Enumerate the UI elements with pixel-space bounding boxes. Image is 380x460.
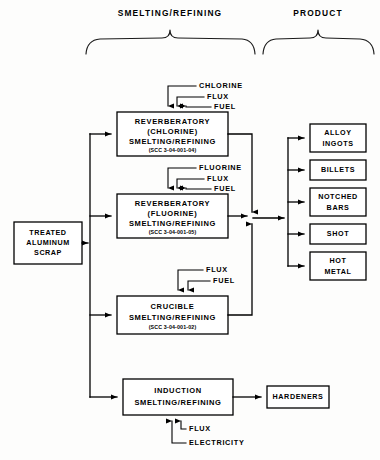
input-line-flux-4 bbox=[181, 421, 186, 429]
product-hardeners-group: HARDENERS bbox=[233, 386, 329, 408]
flow-diagram-canvas: SMELTING/REFINING PRODUCT TREATED ALUMIN… bbox=[0, 0, 380, 460]
process-induction-group: INDUCTION SMELTING/REFINING bbox=[123, 379, 233, 415]
induction-line-1: INDUCTION bbox=[154, 386, 202, 395]
product-billets-group: BILLETS bbox=[288, 160, 366, 180]
input-line-fluorine-2 bbox=[168, 168, 196, 188]
crucible-line-2: SMELTING/REFINING bbox=[129, 313, 216, 322]
header-label-smelting: SMELTING/REFINING bbox=[118, 8, 223, 18]
reverberatory-chlorine-line-2: (CHLORINE) bbox=[147, 127, 198, 136]
hot-metal-line-1: HOT bbox=[330, 256, 347, 265]
brace-smelting-refining bbox=[86, 30, 255, 54]
input-line-electricity-4 bbox=[172, 421, 186, 443]
crucible-scc: (SCC 3-04-001-02) bbox=[149, 324, 197, 330]
input-line-flux-1 bbox=[177, 97, 204, 106]
input-label-flux-1: FLUX bbox=[207, 92, 229, 101]
billets-line-1: BILLETS bbox=[321, 165, 355, 174]
reverberatory-chlorine-scc: (SCC 3-04-001-04) bbox=[149, 147, 197, 153]
input-line-chlorine-1 bbox=[168, 86, 196, 106]
input-label-flux-2: FLUX bbox=[207, 174, 229, 183]
input-label-electricity-4: ELECTRICITY bbox=[189, 438, 245, 447]
input-line-flux-2 bbox=[177, 179, 204, 188]
input-label-chlorine-1: CHLORINE bbox=[199, 81, 243, 90]
product-notched-bars-group: NOTCHED BARS bbox=[288, 188, 366, 216]
connector-chlorine-output bbox=[228, 134, 252, 212]
inputs-reverberatory-fluorine: FLUORINE FLUX FUEL bbox=[168, 163, 242, 193]
reverberatory-fluorine-line-1: REVERBERATORY bbox=[135, 199, 210, 208]
input-label-flux-4: FLUX bbox=[189, 424, 211, 433]
input-line-fuel-2 bbox=[186, 188, 211, 189]
input-label-fuel-1: FUEL bbox=[214, 102, 236, 111]
feedstock-line-1: TREATED bbox=[29, 228, 66, 237]
input-label-fuel-2: FUEL bbox=[214, 184, 236, 193]
reverberatory-chlorine-line-1: REVERBERATORY bbox=[135, 117, 210, 126]
inputs-reverberatory-chlorine: CHLORINE FLUX FUEL bbox=[168, 81, 243, 111]
alloy-ingots-line-1: ALLOY bbox=[324, 128, 351, 137]
brace-product bbox=[263, 30, 374, 54]
process-flow-diagram: SMELTING/REFINING PRODUCT TREATED ALUMIN… bbox=[0, 0, 380, 460]
input-label-flux-3: FLUX bbox=[206, 265, 228, 274]
input-line-fuel-3 bbox=[188, 281, 210, 290]
product-shot-group: SHOT bbox=[288, 224, 366, 244]
alloy-ingots-line-2: INGOTS bbox=[322, 139, 353, 148]
inputs-induction: FLUX ELECTRICITY bbox=[172, 421, 245, 447]
hot-metal-line-2: METAL bbox=[324, 267, 351, 276]
inputs-crucible: FLUX FUEL bbox=[178, 265, 235, 290]
notched-bars-line-2: BARS bbox=[327, 203, 350, 212]
reverberatory-fluorine-line-3: SMELTING/REFINING bbox=[129, 219, 216, 228]
header-product: PRODUCT bbox=[263, 8, 374, 54]
notched-bars-line-1: NOTCHED bbox=[318, 192, 358, 201]
hardeners-label: HARDENERS bbox=[273, 392, 324, 401]
process-reverberatory-fluorine-group: REVERBERATORY (FLUORINE) SMELTING/REFINI… bbox=[117, 194, 228, 238]
reverberatory-chlorine-line-3: SMELTING/REFINING bbox=[129, 137, 216, 146]
output-convergence-group bbox=[228, 134, 288, 315]
product-alloy-ingots-group: ALLOY INGOTS bbox=[288, 124, 366, 152]
crucible-line-1: CRUCIBLE bbox=[151, 302, 195, 311]
header-smelting-refining: SMELTING/REFINING bbox=[86, 8, 255, 54]
process-reverberatory-chlorine-group: REVERBERATORY (CHLORINE) SMELTING/REFINI… bbox=[117, 112, 228, 156]
input-label-fuel-3: FUEL bbox=[213, 276, 235, 285]
input-line-fuel-1 bbox=[186, 106, 211, 107]
input-line-flux-3 bbox=[178, 270, 203, 290]
process-crucible-group: CRUCIBLE SMELTING/REFINING (SCC 3-04-001… bbox=[117, 296, 228, 334]
reverberatory-fluorine-line-2: (FLUORINE) bbox=[148, 209, 198, 218]
feedstock-line-2: ALUMINUM bbox=[26, 238, 70, 247]
header-label-product: PRODUCT bbox=[293, 8, 342, 18]
product-hot-metal-group: HOT METAL bbox=[288, 252, 366, 280]
input-label-fluorine-2: FLUORINE bbox=[199, 163, 242, 172]
reverberatory-fluorine-scc: (SCC 3-04-001-05) bbox=[149, 229, 197, 235]
induction-line-2: SMELTING/REFINING bbox=[134, 398, 221, 407]
shot-line-1: SHOT bbox=[327, 229, 349, 238]
feedstock-line-3: SCRAP bbox=[34, 248, 62, 257]
connector-crucible-output bbox=[228, 224, 252, 315]
feedstock-box-group: TREATED ALUMINUM SCRAP bbox=[14, 222, 82, 264]
